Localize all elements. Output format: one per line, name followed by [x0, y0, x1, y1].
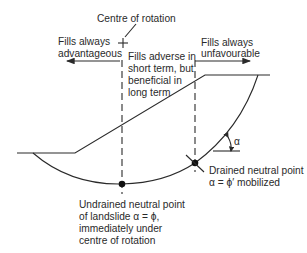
- middle-zone-label-3: beneficial in: [128, 75, 182, 86]
- right-zone-label-1: Fills always: [201, 37, 253, 48]
- undrained-neutral-point: [119, 181, 126, 188]
- drained-point-label-1: Drained neutral point: [209, 165, 304, 176]
- left-zone-label-1: Fills always: [58, 36, 110, 47]
- drained-point-label-2: α = ϕ′ mobilized: [209, 177, 280, 188]
- centre-of-rotation-label: Centre of rotation: [97, 13, 176, 24]
- alpha-angle-arc: [228, 137, 231, 151]
- undrained-point-label-2: of landslide α = ϕ,: [79, 211, 159, 222]
- middle-zone-label-2: short term, but: [128, 63, 194, 74]
- alpha-label: α: [234, 136, 240, 147]
- right-zone-label-2: unfavourable: [201, 48, 260, 59]
- undrained-point-label-4: centre of rotation: [79, 235, 155, 246]
- undrained-point-label-1: Undrained neutral point: [79, 199, 185, 210]
- centre-of-rotation-icon: [118, 24, 136, 48]
- middle-zone-label-4: long term: [128, 87, 170, 98]
- middle-zone-label-1: Fills adverse in: [128, 51, 196, 62]
- left-zone-label-2: advantageous: [58, 48, 122, 59]
- undrained-point-label-3: immediately under: [79, 223, 163, 234]
- slope-diagram: Centre of rotation Fills always advantag…: [0, 0, 307, 253]
